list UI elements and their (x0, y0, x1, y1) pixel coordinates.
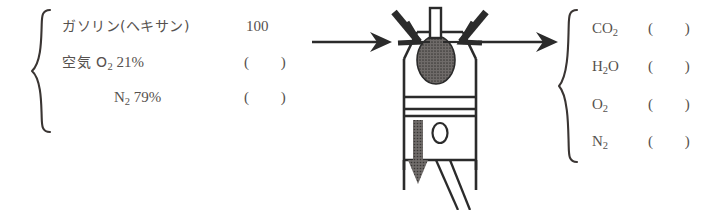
product-name-carbon-dioxide: CO (592, 20, 613, 36)
product-sub-water: 2 (603, 65, 608, 76)
piston-rings (404, 97, 476, 116)
product-name-nitrogen: N (592, 133, 603, 149)
spark-plug (430, 8, 441, 38)
reactant-tail-nitrogen: 79% (130, 89, 161, 105)
reactant-name-air-oxygen: 空気 O (62, 54, 107, 70)
reactant-value-air-oxygen: ( ) (244, 55, 300, 70)
inlet-arrow-icon (312, 28, 394, 54)
product-label-water: H2O (592, 59, 619, 74)
reactant-name-gasoline: ガソリン(ヘキサン) (62, 18, 190, 34)
reactant-label-air-oxygen: 空気 O2 21% (62, 55, 144, 70)
product-tail-water: O (608, 58, 619, 74)
reactant-sub-air-oxygen: 2 (107, 61, 112, 72)
product-sub-oxygen: 2 (603, 103, 608, 114)
outlet-arrow-icon (478, 28, 560, 54)
reactant-label-gasoline: ガソリン(ヘキサン) (62, 19, 190, 34)
product-sub-carbon-dioxide: 2 (613, 27, 618, 38)
product-value-oxygen: ( ) (648, 97, 704, 112)
reactant-value-nitrogen: ( ) (244, 90, 300, 105)
product-name-oxygen: O (592, 96, 603, 112)
product-label-oxygen: O2 (592, 97, 608, 112)
product-value-nitrogen: ( ) (648, 134, 704, 149)
reactant-sub-nitrogen: 2 (125, 96, 130, 107)
piston-pin (433, 123, 448, 143)
products-brace-icon (555, 8, 581, 164)
intake-valve (394, 12, 430, 43)
downward-motion-arrow (408, 120, 428, 184)
reactant-name-nitrogen: N (114, 89, 125, 105)
reactant-tail-air-oxygen: 21% (113, 54, 144, 70)
product-value-water: ( ) (648, 59, 704, 74)
reactants-brace-icon (28, 8, 54, 136)
product-value-carbon-dioxide: ( ) (648, 21, 704, 36)
product-label-carbon-dioxide: CO2 (592, 21, 618, 36)
reactant-label-nitrogen: N2 79% (114, 90, 161, 105)
product-label-nitrogen: N2 (592, 134, 608, 149)
product-sub-nitrogen: 2 (603, 140, 608, 151)
combustion-diagram-figure: ガソリン(ヘキサン) 100 空気 O2 21% ( ) N2 79% ( ) (0, 0, 724, 210)
product-name-water: H (592, 58, 603, 74)
reactant-value-gasoline: 100 (246, 19, 269, 34)
connecting-rod (436, 160, 470, 210)
